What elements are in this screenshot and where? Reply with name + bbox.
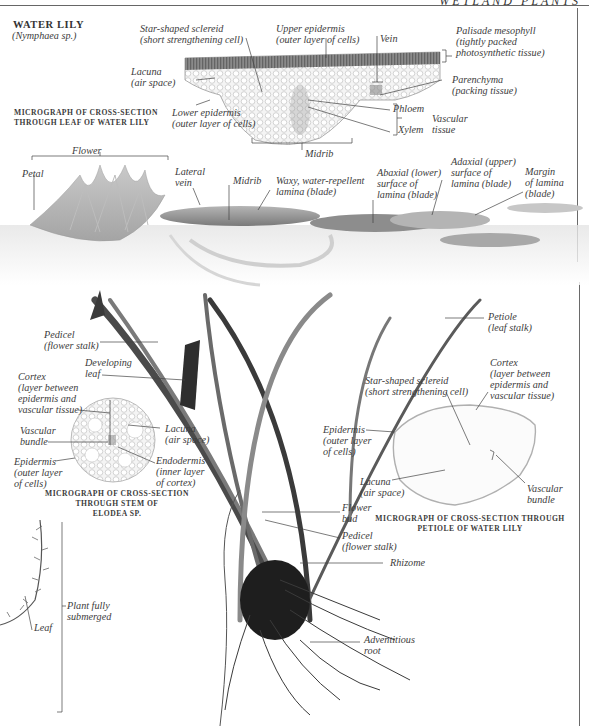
elodea-plant [0, 520, 66, 712]
label-phloem: Phloem [393, 103, 424, 114]
label-lateral-vein: Lateral vein [175, 166, 205, 188]
label-petiole-cortex: Cortex (layer between epidermis and vasc… [490, 357, 554, 401]
caption-petiole-micrograph: MICROGRAPH OF CROSS-SECTION THROUGH PETI… [370, 514, 570, 534]
label-petiole: Petiole (leaf stalk) [488, 311, 532, 333]
label-margin-lamina: Margin of lamina (blade) [525, 166, 564, 199]
label-abaxial-surface: Abaxial (lower) surface of lamina (blade… [377, 167, 441, 200]
label-star-shaped-sclereid: Star-shaped sclereid (short strengthenin… [140, 23, 243, 45]
label-elodea-vascular-bundle: Vascular bundle [20, 425, 56, 447]
label-vein: Vein [380, 33, 398, 44]
petiole-cross-section [393, 405, 535, 505]
label-lower-epidermis: Lower epidermis (outer layer of cells) [172, 107, 255, 129]
label-elodea-endodermis: Endodermis (inner layer of cortex) [156, 455, 205, 488]
label-xylem: Xylem [398, 124, 423, 135]
label-petiole-lacuna: Lacuna (air space) [360, 476, 404, 498]
label-midrib-leaf: Midrib [233, 175, 261, 186]
label-elodea-leaf: Leaf [34, 622, 52, 633]
label-pedicel-top: Pedicel (flower stalk) [44, 329, 99, 351]
label-plant-submerged: Plant fully submerged [67, 600, 111, 622]
label-waxy-lamina: Waxy, water-repellent lamina (blade) [276, 175, 364, 197]
label-parenchyma: Parenchyma (packing tissue) [452, 74, 517, 96]
label-elodea-epidermis: Epidermis (outer layer of cells) [14, 456, 62, 489]
label-developing-leaf: Developing leaf [85, 357, 132, 379]
label-elodea-cortex: Cortex (layer between epidermis and vasc… [18, 371, 82, 415]
label-flower: Flower [72, 145, 101, 156]
label-palisade-mesophyll: Palisade mesophyll (tightly packed photo… [456, 25, 545, 58]
label-lacuna: Lacuna (air space) [131, 66, 175, 88]
label-petal: Petal [22, 168, 44, 179]
label-adventitious-root: Adventitious root [364, 634, 415, 656]
label-vascular-tissue: Vascular tissue [432, 113, 468, 135]
label-petiole-epidermis: Epidermis (outer layer of cells) [323, 424, 371, 457]
label-petiole-vascular-bundle: Vascular bundle [527, 483, 563, 505]
label-adaxial-surface: Adaxial (upper) surface of lamina (blade… [451, 156, 516, 189]
caption-elodea-micrograph: MICROGRAPH OF CROSS-SECTION THROUGH STEM… [42, 489, 192, 519]
label-upper-epidermis: Upper epidermis (outer layer of cells) [276, 23, 359, 45]
label-midrib-micrograph: Midrib [305, 148, 333, 159]
caption-leaf-micrograph: MICROGRAPH OF CROSS-SECTION THROUGH LEAF… [14, 108, 158, 128]
label-rhizome: Rhizome [390, 557, 425, 568]
label-flower-bud: Flower bud [342, 502, 371, 524]
label-elodea-lacuna: Lacuna (air space) [165, 423, 209, 445]
label-petiole-sclereid: Star-shaped sclereid (short strengthenin… [365, 375, 468, 397]
